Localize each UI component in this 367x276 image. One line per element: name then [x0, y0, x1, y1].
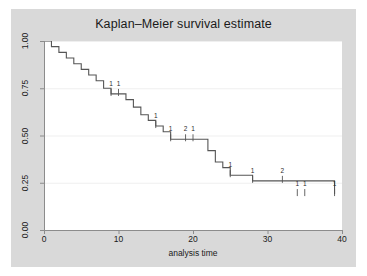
censor-count-label: 1: [223, 161, 237, 169]
x-tick-label: 10: [107, 234, 131, 244]
censor-count-label: 1: [112, 80, 126, 88]
censor-count-label: 1: [298, 180, 312, 188]
y-tick-label: 1.00: [19, 28, 31, 54]
x-tick-label: 40: [330, 234, 354, 244]
y-tick-label: 0.25: [19, 170, 31, 196]
survival-curve-svg: [44, 41, 342, 230]
kaplan-meier-figure: Kaplan–Meier survival estimate 0.000.250…: [0, 0, 367, 276]
x-tick-label: 30: [256, 234, 280, 244]
y-tick-label: 0.50: [19, 123, 31, 149]
censor-count-label: 1: [246, 167, 260, 175]
chart-title: Kaplan–Meier survival estimate: [11, 17, 356, 31]
x-axis-title: analysis time: [44, 248, 342, 258]
y-tick-label: 0.00: [19, 217, 31, 243]
censor-count-label: 2: [275, 167, 289, 175]
x-tick-label: 0: [32, 234, 56, 244]
censor-count-label: 1: [328, 180, 342, 188]
survival-step-curve: [44, 41, 335, 194]
x-tick-label: 20: [181, 234, 205, 244]
censor-count-label: 1: [186, 125, 200, 133]
plot-area: [44, 41, 342, 230]
censor-count-label: 1: [164, 125, 178, 133]
censor-count-label: 1: [149, 112, 163, 120]
y-tick-label: 0.75: [19, 75, 31, 101]
